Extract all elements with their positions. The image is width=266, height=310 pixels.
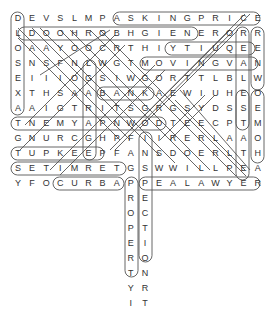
grid-cell[interactable]: D [11, 11, 25, 26]
grid-cell[interactable]: P [124, 221, 138, 236]
grid-cell[interactable]: G [138, 26, 152, 41]
grid-cell[interactable]: R [82, 26, 96, 41]
grid-cell[interactable]: V [39, 11, 53, 26]
grid-cell[interactable]: I [138, 236, 152, 251]
grid-cell[interactable]: I [152, 26, 166, 41]
grid-cell[interactable]: I [194, 41, 208, 56]
grid-cell[interactable]: D [25, 26, 39, 41]
grid-cell[interactable]: I [152, 11, 166, 26]
grid-cell[interactable]: W [208, 176, 222, 191]
grid-cell[interactable]: A [82, 116, 96, 131]
grid-cell[interactable]: T [67, 101, 81, 116]
grid-cell[interactable]: C [67, 131, 81, 146]
grid-cell[interactable]: R [53, 131, 67, 146]
grid-cell[interactable]: I [39, 71, 53, 86]
grid-cell[interactable]: Y [53, 41, 67, 56]
grid-cell[interactable]: E [194, 116, 208, 131]
grid-cell[interactable]: E [166, 86, 180, 101]
grid-cell[interactable]: E [166, 26, 180, 41]
grid-cell[interactable]: T [110, 161, 124, 176]
grid-cell[interactable]: O [251, 131, 265, 146]
grid-cell[interactable]: C [138, 206, 152, 221]
grid-cell[interactable]: T [124, 266, 138, 281]
grid-cell[interactable]: T [124, 41, 138, 56]
grid-cell[interactable]: R [194, 131, 208, 146]
grid-cell[interactable]: A [194, 176, 208, 191]
grid-cell[interactable]: O [11, 41, 25, 56]
grid-cell[interactable]: A [110, 86, 124, 101]
grid-cell[interactable]: M [53, 116, 67, 131]
grid-cell[interactable]: E [152, 176, 166, 191]
grid-cell[interactable]: E [25, 161, 39, 176]
grid-cell[interactable]: S [11, 56, 25, 71]
grid-cell[interactable]: A [251, 161, 265, 176]
grid-cell[interactable]: G [180, 11, 194, 26]
grid-cell[interactable]: N [194, 56, 208, 71]
grid-cell[interactable]: T [11, 116, 25, 131]
grid-cell[interactable]: M [67, 161, 81, 176]
grid-cell[interactable]: U [67, 176, 81, 191]
grid-cell[interactable]: P [138, 176, 152, 191]
grid-cell[interactable]: O [180, 146, 194, 161]
grid-cell[interactable]: A [25, 101, 39, 116]
grid-cell[interactable]: N [25, 56, 39, 71]
grid-cell[interactable]: S [53, 11, 67, 26]
grid-cell[interactable]: S [124, 11, 138, 26]
grid-cell[interactable]: A [39, 41, 53, 56]
grid-cell[interactable]: G [166, 101, 180, 116]
grid-cell[interactable]: I [152, 41, 166, 56]
grid-cell[interactable]: I [96, 101, 110, 116]
grid-cell[interactable]: S [180, 101, 194, 116]
grid-cell[interactable]: U [25, 146, 39, 161]
grid-cell[interactable]: G [138, 71, 152, 86]
grid-cell[interactable]: C [237, 11, 251, 26]
grid-cell[interactable]: T [11, 146, 25, 161]
grid-cell[interactable]: T [110, 101, 124, 116]
grid-cell[interactable]: R [124, 251, 138, 266]
grid-cell[interactable]: G [110, 56, 124, 71]
grid-cell[interactable]: G [82, 131, 96, 146]
grid-cell[interactable]: E [194, 26, 208, 41]
grid-cell[interactable]: E [96, 161, 110, 176]
grid-cell[interactable]: L [67, 11, 81, 26]
grid-cell[interactable]: T [138, 296, 152, 310]
grid-cell[interactable]: E [124, 236, 138, 251]
grid-cell[interactable]: P [124, 176, 138, 191]
grid-cell[interactable]: W [166, 161, 180, 176]
grid-cell[interactable]: T [25, 86, 39, 101]
grid-cell[interactable]: P [194, 11, 208, 26]
grid-cell[interactable]: R [82, 176, 96, 191]
grid-cell[interactable]: G [53, 101, 67, 116]
grid-cell[interactable]: U [208, 41, 222, 56]
grid-cell[interactable]: S [39, 56, 53, 71]
grid-cell[interactable]: E [67, 146, 81, 161]
grid-cell[interactable]: I [223, 11, 237, 26]
grid-cell[interactable]: T [237, 116, 251, 131]
grid-cell[interactable]: S [96, 71, 110, 86]
grid-cell[interactable]: T [166, 116, 180, 131]
grid-cell[interactable]: P [39, 146, 53, 161]
grid-cell[interactable]: N [124, 86, 138, 101]
grid-cell[interactable]: E [180, 116, 194, 131]
grid-cell[interactable]: G [82, 71, 96, 86]
grid-cell[interactable]: E [180, 131, 194, 146]
grid-cell[interactable]: O [124, 206, 138, 221]
grid-cell[interactable]: H [138, 41, 152, 56]
grid-cell[interactable]: S [152, 146, 166, 161]
grid-cell[interactable]: Y [223, 176, 237, 191]
grid-cell[interactable]: V [166, 56, 180, 71]
grid-cell[interactable]: F [25, 176, 39, 191]
grid-cell[interactable]: A [124, 146, 138, 161]
grid-cell[interactable]: O [67, 71, 81, 86]
grid-cell[interactable]: I [152, 131, 166, 146]
grid-cell[interactable]: R [251, 176, 265, 191]
grid-cell[interactable]: L [82, 56, 96, 71]
grid-cell[interactable]: D [166, 146, 180, 161]
grid-cell[interactable]: I [138, 131, 152, 146]
grid-cell[interactable]: E [25, 11, 39, 26]
grid-cell[interactable]: L [180, 176, 194, 191]
grid-cell[interactable]: N [180, 26, 194, 41]
grid-cell[interactable]: W [124, 116, 138, 131]
grid-cell[interactable]: C [208, 116, 222, 131]
grid-cell[interactable]: I [53, 71, 67, 86]
